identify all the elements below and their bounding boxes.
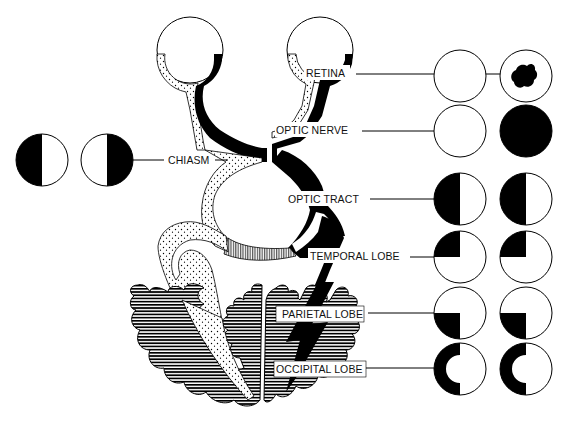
temporal-lobe-field-right xyxy=(500,231,552,283)
retina-label: RETINA xyxy=(306,67,345,79)
optic-nerve-field-left xyxy=(434,105,486,157)
parietal-lobe-field-left xyxy=(434,287,486,339)
occipital-lobe-label: OCCIPITAL LOBE xyxy=(276,363,363,375)
visual-pathway-diagram: RETINA OPTIC NERVE CHIASM OPTIC TRACT TE… xyxy=(0,0,567,421)
retina-field-left xyxy=(434,50,486,102)
parietal-lobe-label: PARIETAL LOBE xyxy=(282,308,363,320)
optic-nerve-field-right xyxy=(500,105,552,157)
optic-tract-field-right xyxy=(500,173,552,225)
temporal-lobe-field-left xyxy=(434,231,486,283)
occipital-lobe-field-right xyxy=(500,343,552,395)
chiasm-label: CHIASM xyxy=(168,154,209,166)
optic-nerve-label: OPTIC NERVE xyxy=(276,124,348,136)
chiasm-field-right xyxy=(81,134,133,186)
temporal-lobe-label: TEMPORAL LOBE xyxy=(310,250,400,262)
temporal-lobe-fibres xyxy=(224,238,296,260)
retina-field-right xyxy=(500,50,552,102)
optic-tract-field-left xyxy=(434,173,486,225)
parietal-lobe-field-right xyxy=(500,287,552,339)
chiasm-field-left xyxy=(16,134,68,186)
occipital-lobe-field-left xyxy=(434,343,486,395)
optic-tract-label: OPTIC TRACT xyxy=(288,193,359,205)
